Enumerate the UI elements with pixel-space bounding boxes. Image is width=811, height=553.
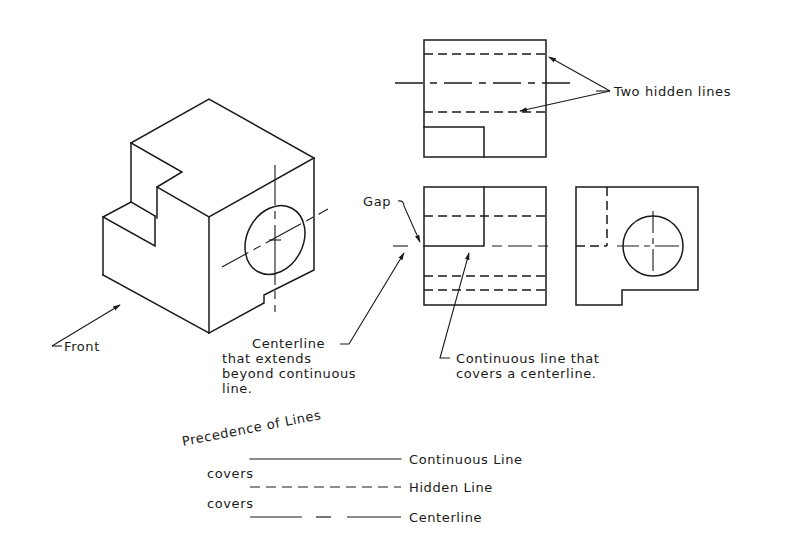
centerline-note-line-4: line. — [222, 381, 253, 396]
continuous-note-line-1: Continuous line that — [456, 351, 600, 366]
legend-covers-2: covers — [207, 496, 254, 511]
legend-continuous-label: Continuous Line — [409, 452, 523, 467]
legend-title: Precedence of Lines — [181, 407, 323, 449]
legend-centerline-label: Centerline — [409, 510, 482, 525]
gap-label: Gap — [363, 194, 391, 209]
top-view: Two hidden lines — [395, 40, 731, 157]
front-label: Front — [64, 339, 100, 354]
centerline-note-line-1: Centerline — [252, 336, 325, 351]
centerline-note-line-2: that extends — [222, 351, 312, 366]
two-hidden-lines-label: Two hidden lines — [613, 84, 731, 99]
side-view — [576, 187, 698, 305]
isometric-view: Front — [52, 99, 328, 354]
continuous-note-line-2: covers a centerline. — [456, 366, 597, 381]
legend-covers-1: covers — [207, 466, 254, 481]
centerline-note-line-3: beyond continuous — [222, 366, 356, 381]
legend: Precedence of Lines Continuous Line cove… — [181, 407, 523, 525]
front-view: Gap Centerline that extends beyond conti… — [222, 187, 600, 396]
legend-hidden-label: Hidden Line — [409, 480, 493, 495]
precedence-of-lines-diagram: Front Two hidden lines Gap Centerline t — [0, 0, 811, 553]
